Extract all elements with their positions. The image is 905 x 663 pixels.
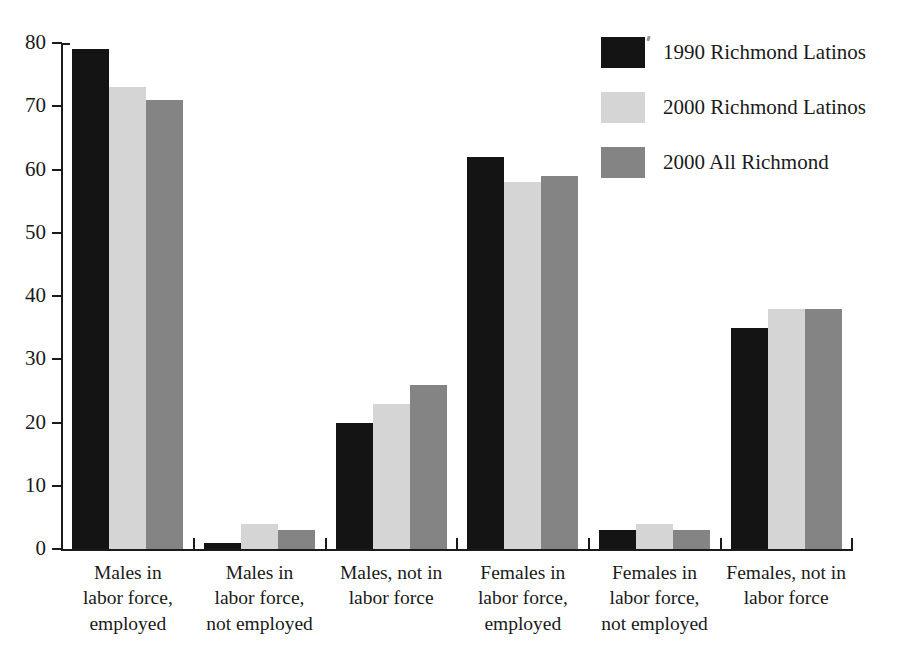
x-axis-category-label: Males inlabor force,employed: [52, 560, 204, 636]
y-axis-tick-label: 50: [0, 222, 46, 243]
y-axis-tick: [52, 42, 62, 44]
y-axis-tick: [52, 358, 62, 360]
bar: [541, 176, 578, 549]
x-axis-tick: [325, 538, 327, 551]
category-label-line: labor force: [710, 585, 862, 610]
category-label-line: labor force: [315, 585, 467, 610]
bar: [599, 530, 636, 549]
bar: [373, 404, 410, 549]
legend-label: 1990 Richmond Latinos: [663, 38, 866, 66]
y-axis-tick: [52, 169, 62, 171]
category-label-line: labor force,: [184, 585, 336, 610]
legend-label: 2000 Richmond Latinos: [663, 93, 866, 121]
x-axis-category-label: Females, not inlabor force: [710, 560, 862, 611]
legend-swatch: [601, 92, 645, 123]
scan-speck-artifact: [646, 36, 650, 42]
x-axis-tick: [720, 538, 722, 551]
bar-group: [72, 43, 183, 549]
bar: [72, 49, 109, 549]
y-axis-tick: [52, 232, 62, 234]
y-axis-tick-label: 80: [0, 32, 46, 53]
category-label-line: Females in: [579, 560, 731, 585]
legend-swatch: [601, 37, 645, 68]
x-axis-category-label: Females inlabor force,not employed: [579, 560, 731, 636]
y-axis-tick-label: 70: [0, 95, 46, 116]
category-label-line: employed: [52, 611, 204, 636]
category-label-line: not employed: [579, 611, 731, 636]
bar: [241, 524, 278, 549]
bar: [673, 530, 710, 549]
bar: [109, 87, 146, 549]
x-axis-category-label: Males inlabor force,not employed: [184, 560, 336, 636]
bar-chart: 01020304050607080 Males inlabor force,em…: [0, 0, 905, 663]
category-label-line: Males in: [52, 560, 204, 585]
category-label-line: labor force,: [579, 585, 731, 610]
y-axis-tick-label: 30: [0, 348, 46, 369]
y-axis-tick-label: 40: [0, 285, 46, 306]
bar-group: [336, 43, 447, 549]
y-axis-tick-label: 10: [0, 475, 46, 496]
bar: [504, 182, 541, 549]
x-axis-category-label: Females inlabor force,employed: [447, 560, 599, 636]
category-label-line: employed: [447, 611, 599, 636]
y-axis-tick: [52, 295, 62, 297]
bar: [805, 309, 842, 549]
x-axis-tick: [61, 538, 63, 551]
y-axis-tick-label: 20: [0, 412, 46, 433]
bar: [204, 543, 241, 549]
y-axis-tick: [52, 105, 62, 107]
x-axis-tick: [588, 538, 590, 551]
category-label-line: Females in: [447, 560, 599, 585]
bar: [336, 423, 373, 550]
bar: [278, 530, 315, 549]
bar: [410, 385, 447, 549]
bar: [467, 157, 504, 549]
y-axis-tick: [52, 422, 62, 424]
category-label-line: labor force,: [52, 585, 204, 610]
bar-group: [204, 43, 315, 549]
bar: [731, 328, 768, 549]
y-axis-tick-label: 0: [0, 538, 46, 559]
bar: [768, 309, 805, 549]
category-label-line: labor force,: [447, 585, 599, 610]
legend-swatch: [601, 147, 645, 178]
y-axis-tick-label: 60: [0, 159, 46, 180]
x-axis-tick: [193, 538, 195, 551]
bar: [146, 100, 183, 549]
y-axis-tick: [52, 485, 62, 487]
x-axis-category-label: Males, not inlabor force: [315, 560, 467, 611]
category-label-line: Males, not in: [315, 560, 467, 585]
bar-group: [467, 43, 578, 549]
category-label-line: Males in: [184, 560, 336, 585]
bar: [636, 524, 673, 549]
legend-label: 2000 All Richmond: [663, 148, 829, 176]
category-label-line: Females, not in: [710, 560, 862, 585]
category-label-line: not employed: [184, 611, 336, 636]
x-axis-tick: [456, 538, 458, 551]
